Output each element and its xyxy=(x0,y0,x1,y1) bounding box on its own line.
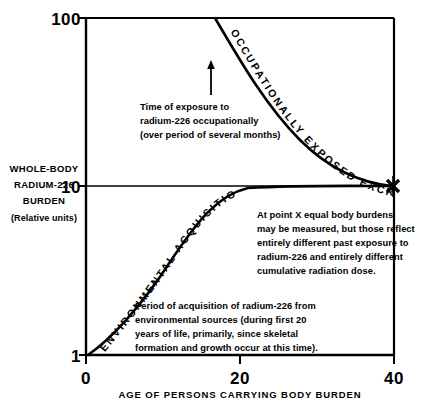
point-x-note-line-2: may be measured, but those reflect xyxy=(257,224,415,234)
x-tick-40: 40 xyxy=(384,369,404,388)
chart-canvas: 100 10 1 0 20 40 AGE OF PERSONS CARRYING… xyxy=(0,0,423,403)
y-axis-label-line-3: BURDEN xyxy=(23,195,65,206)
y-tick-100: 100 xyxy=(51,10,81,29)
y-axis-label-line-1: WHOLE-BODY xyxy=(10,163,79,174)
y-axis-sublabel: (Relative units) xyxy=(11,213,77,223)
acquisition-note-line-3: years of life, primarily, since skeletal xyxy=(135,329,298,339)
exposure-note-line-1: Time of exposure to xyxy=(140,102,229,112)
exposure-note: Time of exposure to radium-226 occupatio… xyxy=(140,102,281,140)
point-x-note-line-3: entirely different past exposure to xyxy=(257,238,409,248)
point-x-note: At point X equal body burdens may be mea… xyxy=(257,210,415,276)
x-tick-0: 0 xyxy=(81,369,91,388)
point-x-note-line-5: cumulative radiation dose. xyxy=(257,266,376,276)
exposure-note-line-3: (over period of several months) xyxy=(140,130,281,140)
acquisition-note-line-1: Period of acquisition of radium-226 from xyxy=(135,301,316,311)
y-tick-1: 1 xyxy=(71,347,81,366)
radium-burden-chart: 100 10 1 0 20 40 AGE OF PERSONS CARRYING… xyxy=(0,0,423,403)
x-axis-title: AGE OF PERSONS CARRYING BODY BURDEN xyxy=(118,389,361,400)
point-x-note-line-4: radium-226 and entirely different xyxy=(257,252,403,262)
acquisition-note-line-4: formation and growth occur at this time)… xyxy=(135,343,318,353)
x-tick-20: 20 xyxy=(230,369,250,388)
x-axis-ticks xyxy=(86,355,394,364)
exposure-arrow-icon xyxy=(207,60,215,95)
acquisition-note-line-2: environmental sources (during first 20 xyxy=(135,315,306,325)
exposure-note-line-2: radium-226 occupationally xyxy=(140,116,259,126)
y-axis-label-line-2: RADIUM-226 xyxy=(14,179,74,190)
acquisition-note: Period of acquisition of radium-226 from… xyxy=(135,301,318,353)
point-x-note-line-1: At point X equal body burdens xyxy=(257,210,393,220)
